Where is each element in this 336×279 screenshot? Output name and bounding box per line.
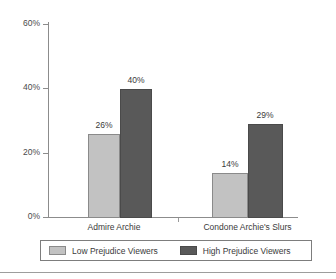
plot-area: 26% 40% 14% 29% [48,22,298,218]
y-axis-label-60: 60% [0,19,40,28]
legend-swatch-icon-high-prejudice [180,246,197,255]
legend-label-low-prejudice: Low Prejudice Viewers [72,246,158,256]
y-axis-label-20: 20% [0,148,40,157]
chart-legend: Low Prejudice Viewers High Prejudice Vie… [40,240,312,261]
legend-item-high-prejudice: High Prejudice Viewers [180,246,291,256]
legend-swatch-icon-low-prejudice [49,246,66,255]
bar-condone-slurs-low-prejudice [212,173,248,218]
x-axis-group-separator-tick [178,218,179,222]
bar-value-admire-archie-high-prejudice: 40% [114,75,158,85]
bar-value-condone-slurs-high-prejudice: 29% [243,110,287,120]
bar-admire-archie-high-prejudice [120,89,152,218]
bar-chart-figure: 60% 40% 20% 0% 26% 40% 14% 29% Admire Ar… [0,0,336,279]
x-axis-category-admire-archie: Admire Archie [58,222,170,233]
bar-admire-archie-low-prejudice [88,134,120,218]
bottom-divider [0,272,336,273]
y-axis-label-0: 0% [0,212,40,221]
bar-value-condone-slurs-low-prejudice: 14% [208,159,252,169]
legend-label-high-prejudice: High Prejudice Viewers [203,246,291,256]
x-axis-category-condone-slurs: Condone Archie's Slurs [185,222,310,233]
y-axis-label-40: 40% [0,83,40,92]
legend-item-low-prejudice: Low Prejudice Viewers [49,246,158,256]
bar-condone-slurs-high-prejudice [248,124,283,218]
